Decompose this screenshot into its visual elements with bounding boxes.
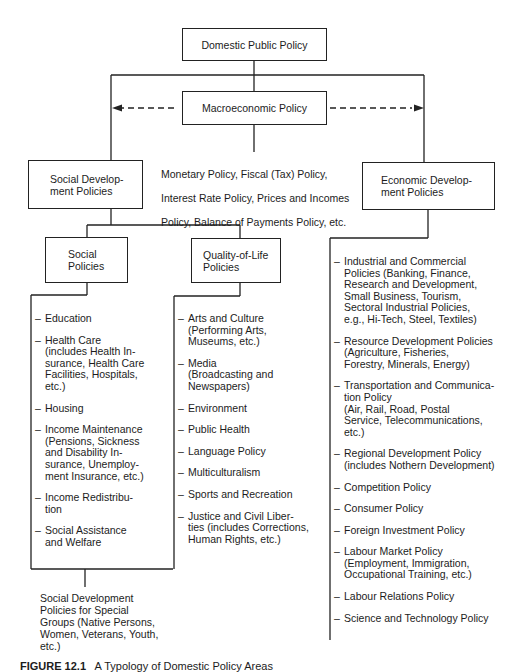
list-item: –Industrial and Commercial Policies (Ban…: [334, 256, 524, 326]
list-item: –Labour Relations Policy: [334, 591, 524, 603]
list-item: –Arts and Culture (Performing Arts, Muse…: [178, 313, 328, 348]
social-development-label-2: ment Policies: [50, 185, 124, 197]
list-item: –Transportation and Communica- tion Poli…: [334, 380, 524, 438]
domestic-public-policy-box: Domestic Public Policy: [182, 28, 327, 61]
list-item: –Health Care (includes Health In- suranc…: [35, 335, 170, 393]
social-policies-label-2: Policies: [68, 260, 104, 272]
social-development-policies-box: Social Develop- ment Policies: [28, 160, 143, 209]
domestic-public-policy-label: Domestic Public Policy: [201, 39, 307, 51]
social-policies-box: Social Policies: [45, 237, 128, 283]
list-item: –Regional Development Policy (includes N…: [334, 448, 524, 471]
list-item: –Science and Technology Policy: [334, 613, 524, 625]
economic-development-label-2: ment Policies: [381, 186, 472, 198]
list-item: –Environment: [178, 403, 328, 415]
list-item: –Social Assistance and Welfare: [35, 525, 170, 548]
figure-number: FIGURE 12.1: [20, 660, 86, 672]
list-item: –Income Redistribu- tion: [35, 492, 170, 515]
list-item: –Consumer Policy: [334, 503, 524, 515]
quality-of-life-label-2: Policies: [203, 261, 268, 273]
list-item: –Income Maintenance (Pensions, Sickness …: [35, 424, 170, 482]
quality-of-life-policies-box: Quality-of-Life Policies: [191, 238, 281, 283]
macroeconomic-policy-box: Macroeconomic Policy: [182, 91, 327, 125]
social-policies-label-1: Social: [68, 248, 104, 260]
economic-development-label-1: Economic Develop-: [381, 174, 472, 186]
macroeconomic-policy-label: Macroeconomic Policy: [202, 102, 307, 114]
list-item: –Media (Broadcasting and Newspapers): [178, 358, 328, 393]
macroeconomic-policy-description: Monetary Policy, Fiscal (Tax) Policy, In…: [161, 156, 349, 240]
list-item: –Language Policy: [178, 446, 328, 458]
arrow-right-icon: [414, 105, 424, 112]
figure-title: A Typology of Domestic Policy Areas: [95, 660, 273, 672]
list-item: –Sports and Recreation: [178, 489, 328, 501]
social-development-label-1: Social Develop-: [50, 173, 124, 185]
economic-development-policies-box: Economic Develop- ment Policies: [362, 162, 495, 210]
list-item: –Foreign Investment Policy: [334, 525, 524, 537]
social-policies-list: –Education –Health Care (includes Health…: [35, 313, 170, 559]
list-item: –Education: [35, 313, 170, 325]
macro-desc-line-3: Policy, Balance of Payments Policy, etc.: [161, 216, 349, 228]
list-item: –Resource Development Policies (Agricult…: [334, 336, 524, 371]
list-item: –Justice and Civil Liber- ties (includes…: [178, 511, 328, 546]
list-item: –Competition Policy: [334, 482, 524, 494]
list-item: –Public Health: [178, 424, 328, 436]
quality-of-life-list: –Arts and Culture (Performing Arts, Muse…: [178, 313, 328, 555]
list-item: –Labour Market Policy (Employment, Immig…: [334, 546, 524, 581]
list-item: –Housing: [35, 403, 170, 415]
macro-desc-line-1: Monetary Policy, Fiscal (Tax) Policy,: [161, 168, 349, 180]
economic-development-list: –Industrial and Commercial Policies (Ban…: [334, 256, 524, 634]
arrow-left-icon: [112, 105, 122, 112]
quality-of-life-label-1: Quality-of-Life: [203, 249, 268, 261]
special-groups-text: Social Development Policies for Special …: [40, 592, 158, 652]
figure-caption: FIGURE 12.1 A Typology of Domestic Polic…: [20, 660, 273, 672]
list-item: –Multiculturalism: [178, 467, 328, 479]
macro-desc-line-2: Interest Rate Policy, Prices and Incomes: [161, 192, 349, 204]
